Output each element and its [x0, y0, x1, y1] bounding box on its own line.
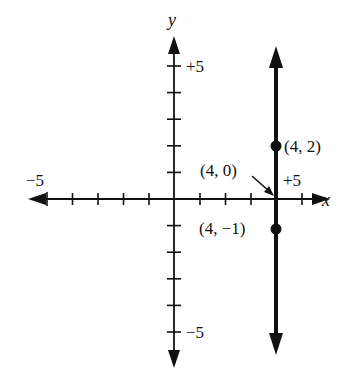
x-tick-label-neg5: −5 — [26, 171, 44, 190]
y-axis-down-arrow-icon — [168, 350, 180, 368]
chart-svg: y x +5 −5 −5 +5 (4, 2) (4, 0) (4, −1) — [0, 0, 355, 389]
point-4-2-dot-icon — [271, 141, 282, 152]
x-axis — [28, 192, 330, 206]
line-down-arrow-icon — [269, 333, 283, 355]
y-axis — [167, 36, 181, 368]
pointer-arrow-4-0 — [252, 176, 274, 196]
y-tick-label-neg5: −5 — [186, 323, 204, 342]
point-4-neg1-dot-icon — [271, 224, 282, 235]
y-axis-label: y — [166, 10, 176, 30]
y-axis-up-arrow-icon — [168, 36, 180, 54]
point-label-4-0: (4, 0) — [200, 161, 237, 180]
x-axis-left-arrow-icon — [28, 193, 46, 205]
x-axis-label: x — [321, 190, 330, 210]
point-label-4-neg1: (4, −1) — [199, 219, 245, 238]
line-up-arrow-icon — [269, 46, 283, 68]
point-label-4-2: (4, 2) — [284, 137, 321, 156]
x-tick-label-pos5: +5 — [283, 171, 301, 190]
line-x-equals-4 — [269, 46, 283, 355]
coordinate-plane-figure: y x +5 −5 −5 +5 (4, 2) (4, 0) (4, −1) — [0, 0, 355, 389]
y-tick-label-pos5: +5 — [186, 57, 204, 76]
